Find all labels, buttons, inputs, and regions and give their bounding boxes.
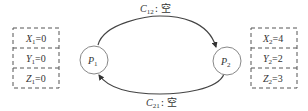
var-x1: X1=0 <box>25 33 46 46</box>
channel-c12-arrow <box>98 16 216 47</box>
var-y2: Y2=2 <box>263 53 283 66</box>
channel-label-c21: C21:空 <box>146 96 177 110</box>
process-channel-diagram: X1=0 Y1=0 Z1=0 X2=4 Y2=2 Z2=3 P1 P2 C12:… <box>0 0 308 111</box>
var-x2: X2=4 <box>262 33 283 46</box>
process-node-p1: P1 <box>80 46 108 74</box>
process-node-p2: P2 <box>213 47 241 75</box>
var-y1: Y1=0 <box>26 53 46 66</box>
var-z2: Z2=3 <box>263 73 283 86</box>
state-box-p1: X1=0 Y1=0 Z1=0 <box>13 28 59 88</box>
channel-c21-arrow <box>99 74 224 94</box>
state-box-p2: X2=4 Y2=2 Z2=3 <box>251 28 297 88</box>
channel-label-c12: C12:空 <box>140 2 171 16</box>
var-z1: Z1=0 <box>26 73 46 86</box>
